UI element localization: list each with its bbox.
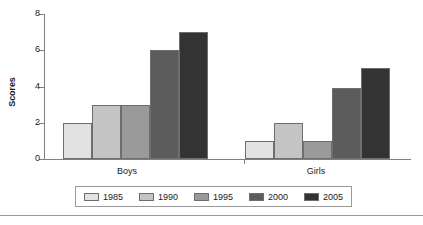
legend-label: 2000 bbox=[268, 192, 288, 202]
y-axis-line bbox=[44, 14, 45, 160]
bar-girls-2005 bbox=[361, 68, 390, 159]
plot-area: 0 2 4 6 8 Boys Girls bbox=[44, 14, 411, 160]
legend-item[interactable]: 1995 bbox=[194, 192, 233, 202]
bar-girls-1985 bbox=[245, 141, 274, 159]
legend-swatch-icon bbox=[84, 193, 99, 201]
legend-item[interactable]: 2005 bbox=[304, 192, 343, 202]
bottom-divider bbox=[0, 215, 423, 216]
bar-boys-1995 bbox=[121, 105, 150, 159]
legend-swatch-icon bbox=[194, 193, 209, 201]
y-axis-title: Scores bbox=[7, 62, 17, 122]
legend-swatch-icon bbox=[139, 193, 154, 201]
group-separator bbox=[244, 160, 245, 164]
y-tick-label: 4 bbox=[35, 81, 40, 91]
legend-item[interactable]: 1985 bbox=[84, 192, 123, 202]
legend-label: 1990 bbox=[158, 192, 178, 202]
y-tick-label: 0 bbox=[35, 153, 40, 163]
bar-boys-1985 bbox=[63, 123, 92, 159]
y-tick-label: 8 bbox=[35, 8, 40, 18]
x-axis-line bbox=[44, 159, 411, 160]
group-label-girls: Girls bbox=[281, 166, 351, 176]
legend-item[interactable]: 1990 bbox=[139, 192, 178, 202]
legend-swatch-icon bbox=[249, 193, 264, 201]
bar-boys-1990 bbox=[92, 105, 121, 159]
y-tick-label: 6 bbox=[35, 44, 40, 54]
legend-label: 1995 bbox=[213, 192, 233, 202]
bar-chart: Scores 0 2 4 6 8 Boys Girls bbox=[0, 0, 423, 225]
bar-boys-2000 bbox=[150, 50, 179, 159]
legend-item[interactable]: 2000 bbox=[249, 192, 288, 202]
legend-label: 2005 bbox=[323, 192, 343, 202]
y-tick-label: 2 bbox=[35, 117, 40, 127]
bar-girls-1990 bbox=[274, 123, 303, 159]
legend-label: 1985 bbox=[103, 192, 123, 202]
bar-girls-1995 bbox=[303, 141, 332, 159]
bar-girls-2000 bbox=[332, 88, 361, 159]
legend: 1985 1990 1995 2000 2005 bbox=[75, 186, 352, 207]
bar-boys-2005 bbox=[179, 32, 208, 159]
legend-swatch-icon bbox=[304, 193, 319, 201]
group-label-boys: Boys bbox=[92, 166, 162, 176]
